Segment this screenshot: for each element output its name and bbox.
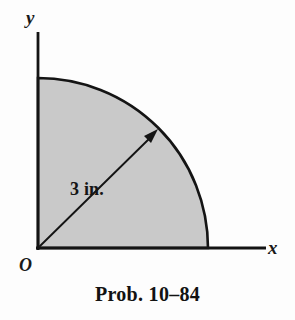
quarter-circle-diagram [0, 0, 295, 320]
radius-dimension-label: 3 in. [70, 180, 104, 198]
figure-caption: Prob. 10–84 [0, 284, 295, 304]
origin-label: O [19, 256, 32, 274]
y-axis-label: y [26, 8, 34, 27]
x-axis-label: x [268, 238, 278, 257]
problem-figure: y x O 3 in. Prob. 10–84 [0, 0, 295, 320]
